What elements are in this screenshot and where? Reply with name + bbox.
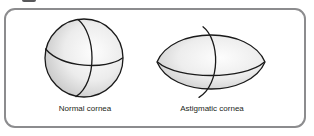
astigmatic-cornea-label: Astigmatic cornea xyxy=(142,104,282,114)
normal-cornea-label: Normal cornea xyxy=(25,104,145,114)
clipped-top-mark xyxy=(22,0,36,2)
figure-root: Normal cornea Astigmatic cornea xyxy=(0,0,314,136)
